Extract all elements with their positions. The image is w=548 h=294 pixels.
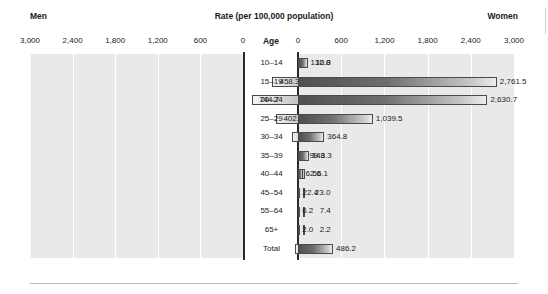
- right-tick-3: 1,800: [418, 36, 438, 45]
- women-bar: [298, 132, 324, 142]
- women-bar: [298, 95, 487, 105]
- right-axis-tick-labels: 06001,2001,8002,4003,000: [0, 36, 548, 48]
- women-value-label: 1,039.5: [376, 110, 403, 129]
- population-pyramid-chart: Men Rate (per 100,000 population) Women …: [0, 0, 548, 294]
- age-group-label: 30–34: [249, 128, 294, 147]
- women-value-label: 2,630.7: [490, 91, 517, 110]
- right-tick-5: 3,000: [504, 36, 524, 45]
- right-tick-0: 0: [296, 36, 300, 45]
- page-edge-mark: [545, 8, 546, 34]
- age-group-label: 10–14: [249, 54, 294, 73]
- women-bar: [298, 169, 303, 179]
- chart-row: 10.810–14132.0: [0, 54, 548, 73]
- women-value-label: 486.2: [336, 240, 356, 259]
- chart-row: 99.335–39148.3: [0, 147, 548, 166]
- women-bar: [298, 225, 300, 235]
- chart-row: 7.455–646.2: [0, 202, 548, 221]
- chart-row: 56.140–4462.6: [0, 165, 548, 184]
- men-value-label: 7.4: [320, 202, 331, 221]
- women-value-label: 148.3: [312, 147, 332, 166]
- chart-row: 744.720–242,630.7: [0, 91, 548, 110]
- chart-row: 402.925–291,039.5: [0, 110, 548, 129]
- age-group-label: 65+: [249, 221, 294, 240]
- women-bar: [298, 207, 300, 217]
- women-bar: [298, 58, 308, 68]
- age-group-label: 45–54: [249, 184, 294, 203]
- women-value-label: 62.6: [306, 165, 322, 184]
- women-bar: [298, 151, 309, 161]
- women-bar: [298, 244, 333, 254]
- age-group-label: 15–19: [249, 73, 294, 92]
- chart-row: 23.045–5422.4: [0, 184, 548, 203]
- women-side-label: Women: [487, 11, 518, 21]
- chart-row: 185.230–34364.8: [0, 128, 548, 147]
- women-value-label: 364.8: [327, 128, 347, 147]
- women-value-label: 2.0: [302, 221, 313, 240]
- age-group-label: 35–39: [249, 147, 294, 166]
- women-bar: [298, 188, 300, 198]
- age-group-label: 25–29: [249, 110, 294, 129]
- age-group-label: 55–64: [249, 202, 294, 221]
- women-value-label: 132.0: [311, 54, 331, 73]
- chart-row: 147.5Total486.2: [0, 240, 548, 259]
- right-tick-4: 2,400: [461, 36, 481, 45]
- women-value-label: 22.4: [303, 184, 319, 203]
- age-group-label: 20–24: [249, 91, 294, 110]
- right-tick-2: 1,200: [374, 36, 394, 45]
- chart-title: Rate (per 100,000 population): [0, 11, 548, 21]
- women-bar: [298, 114, 373, 124]
- bottom-divider: [30, 283, 518, 284]
- chart-row: 458.315–192,761.5: [0, 73, 548, 92]
- age-group-label: Total: [249, 240, 294, 259]
- women-value-label: 6.2: [302, 202, 313, 221]
- men-value-label: 2.2: [320, 221, 331, 240]
- right-tick-1: 600: [335, 36, 348, 45]
- age-group-label: 40–44: [249, 165, 294, 184]
- women-bar: [298, 77, 497, 87]
- women-value-label: 2,761.5: [500, 73, 527, 92]
- chart-row: 2.265+2.0: [0, 221, 548, 240]
